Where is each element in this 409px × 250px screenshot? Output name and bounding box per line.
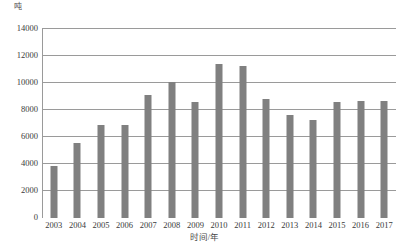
bar-slot xyxy=(66,28,90,218)
x-axis-tick-label: 2013 xyxy=(281,219,298,231)
x-axis-tick-label: 2011 xyxy=(234,219,251,231)
y-axis-tick-label: 8000 xyxy=(2,105,38,114)
y-axis-tick-label: 0 xyxy=(2,213,38,222)
bar xyxy=(263,99,270,218)
x-axis-tick-label: 2003 xyxy=(45,219,62,231)
bar xyxy=(192,102,199,218)
x-axis-tick-label: 2015 xyxy=(329,219,346,231)
y-axis-tick-label: 12000 xyxy=(2,51,38,60)
y-axis-tick-label: 14000 xyxy=(2,24,38,33)
x-axis-tick-label: 2014 xyxy=(305,219,322,231)
bar-slot xyxy=(160,28,184,218)
bar-slot xyxy=(207,28,231,218)
bar xyxy=(215,64,222,218)
bar-slot xyxy=(113,28,137,218)
x-axis-tick-label: 2004 xyxy=(69,219,86,231)
bar-slot xyxy=(349,28,373,218)
bar-slot xyxy=(254,28,278,218)
bar-slot xyxy=(325,28,349,218)
x-axis-tick-label: 2008 xyxy=(163,219,180,231)
x-axis-title: 时间/年 xyxy=(0,232,409,243)
bar-chart: 吨 02000400060008000100001200014000 20032… xyxy=(0,0,409,250)
bar-slot xyxy=(89,28,113,218)
x-axis-tick-labels: 2003200420052006200720082009201020112012… xyxy=(42,219,396,233)
bar xyxy=(239,66,246,218)
y-axis-tick-label: 2000 xyxy=(2,186,38,195)
x-axis-tick-label: 2005 xyxy=(93,219,110,231)
bar-slot xyxy=(372,28,396,218)
bar xyxy=(74,143,81,218)
y-axis-tick-label: 4000 xyxy=(2,159,38,168)
x-axis-tick-label: 2017 xyxy=(376,219,393,231)
x-axis-tick-label: 2012 xyxy=(258,219,275,231)
bar xyxy=(333,102,340,218)
bar-slot xyxy=(42,28,66,218)
bar-series xyxy=(42,28,396,218)
bar xyxy=(381,101,388,218)
bar xyxy=(357,101,364,218)
x-axis-tick-label: 2006 xyxy=(116,219,133,231)
y-axis-tick-label: 6000 xyxy=(2,132,38,141)
bar-slot xyxy=(278,28,302,218)
bar xyxy=(168,82,175,218)
bar-slot xyxy=(231,28,255,218)
y-axis-tick-label: 10000 xyxy=(2,78,38,87)
bar xyxy=(286,115,293,218)
bar-slot xyxy=(302,28,326,218)
bar xyxy=(145,95,152,218)
bar-slot xyxy=(136,28,160,218)
bar-slot xyxy=(184,28,208,218)
y-axis-tick-labels: 02000400060008000100001200014000 xyxy=(0,0,38,250)
bar xyxy=(121,125,128,218)
x-axis-tick-label: 2016 xyxy=(352,219,369,231)
bar xyxy=(97,125,104,218)
bar xyxy=(310,120,317,218)
x-axis-tick-label: 2010 xyxy=(211,219,228,231)
bar xyxy=(50,166,57,218)
x-axis-tick-label: 2007 xyxy=(140,219,157,231)
x-axis-tick-label: 2009 xyxy=(187,219,204,231)
